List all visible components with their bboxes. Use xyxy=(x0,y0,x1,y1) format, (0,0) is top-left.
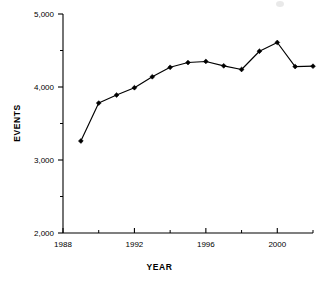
y-tick-label: 3,000 xyxy=(34,156,55,165)
line-chart: EVENTS YEAR 2,0003,0004,0005,000 1988199… xyxy=(0,0,319,285)
x-tick-label: 1992 xyxy=(126,240,144,249)
data-point xyxy=(203,59,208,64)
y-axis: 2,0003,0004,0005,000 xyxy=(34,10,63,238)
data-point xyxy=(114,93,119,98)
x-axis: 1988199219962000 xyxy=(54,228,313,249)
data-point xyxy=(221,63,226,68)
data-point xyxy=(168,65,173,70)
y-tick-label: 4,000 xyxy=(34,83,55,92)
y-tick-label: 5,000 xyxy=(34,10,55,19)
data-point xyxy=(78,139,83,144)
y-tick-label: 2,000 xyxy=(34,229,55,238)
plot-area: 2,0003,0004,0005,000 1988199219962000 xyxy=(0,0,319,285)
data-point-markers xyxy=(78,40,315,143)
x-tick-label: 2000 xyxy=(268,240,286,249)
data-line-events xyxy=(81,42,313,141)
x-tick-label: 1988 xyxy=(54,240,72,249)
data-point xyxy=(186,60,191,65)
y-tick-labels: 2,0003,0004,0005,000 xyxy=(34,10,55,238)
x-tick-labels: 1988199219962000 xyxy=(54,240,287,249)
data-point xyxy=(311,64,316,69)
x-tick-label: 1996 xyxy=(197,240,215,249)
data-point xyxy=(96,101,101,106)
